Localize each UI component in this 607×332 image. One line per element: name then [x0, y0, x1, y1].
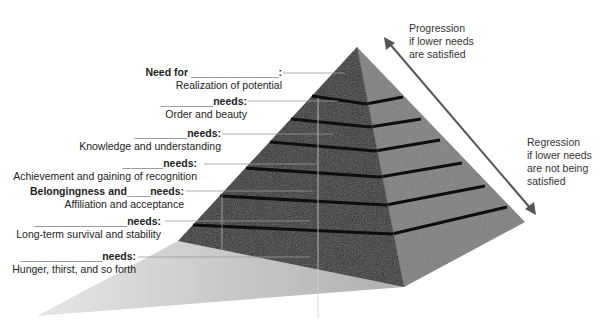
level-heading: Need for _______________:: [145, 66, 282, 79]
level-description: Achievement and gaining of recognition: [13, 170, 197, 183]
level-description: Affiliation and acceptance: [30, 198, 184, 211]
level-heading: _________needs:: [161, 95, 247, 108]
level-label-belongingness: Belongingness and____needs: Affiliation …: [30, 185, 184, 211]
level-label-self-actualization: Need for _______________: Realization of…: [145, 66, 282, 92]
level-label-esteem: _______needs: Achievement and gaining of…: [13, 157, 197, 183]
level-heading: _________needs:: [79, 127, 221, 140]
maslow-pyramid-diagram: Need for _______________: Realization of…: [0, 0, 607, 332]
level-heading: _______needs:: [13, 157, 197, 170]
level-heading: ______________needs:: [12, 250, 136, 263]
level-heading: ________________needs:: [16, 215, 161, 228]
level-heading: Belongingness and____needs:: [30, 185, 184, 198]
level-label-physiological: ______________needs: Hunger, thirst, and…: [12, 250, 136, 276]
level-label-aesthetic: _________needs: Order and beauty: [161, 95, 247, 121]
level-description: Long-term survival and stability: [16, 228, 161, 241]
progression-note: Progression if lower needs are satisfied: [409, 22, 474, 61]
level-description: Hunger, thirst, and so forth: [12, 263, 136, 276]
level-description: Realization of potential: [145, 79, 282, 92]
level-description: Order and beauty: [161, 108, 247, 121]
level-description: Knowledge and understanding: [79, 140, 221, 153]
regression-note: Regression if lower needs are not being …: [527, 136, 592, 188]
level-label-cognitive: _________needs: Knowledge and understand…: [79, 127, 221, 153]
level-label-safety: ________________needs: Long-term surviva…: [16, 215, 161, 241]
